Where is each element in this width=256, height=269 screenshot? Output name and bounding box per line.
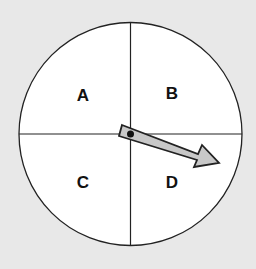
pivot-icon xyxy=(127,131,134,138)
section-label-b: B xyxy=(166,84,178,103)
section-label-d: D xyxy=(166,173,178,192)
section-label-c: C xyxy=(77,173,89,192)
spinner: A B C D xyxy=(0,0,256,269)
section-label-a: A xyxy=(77,86,89,105)
